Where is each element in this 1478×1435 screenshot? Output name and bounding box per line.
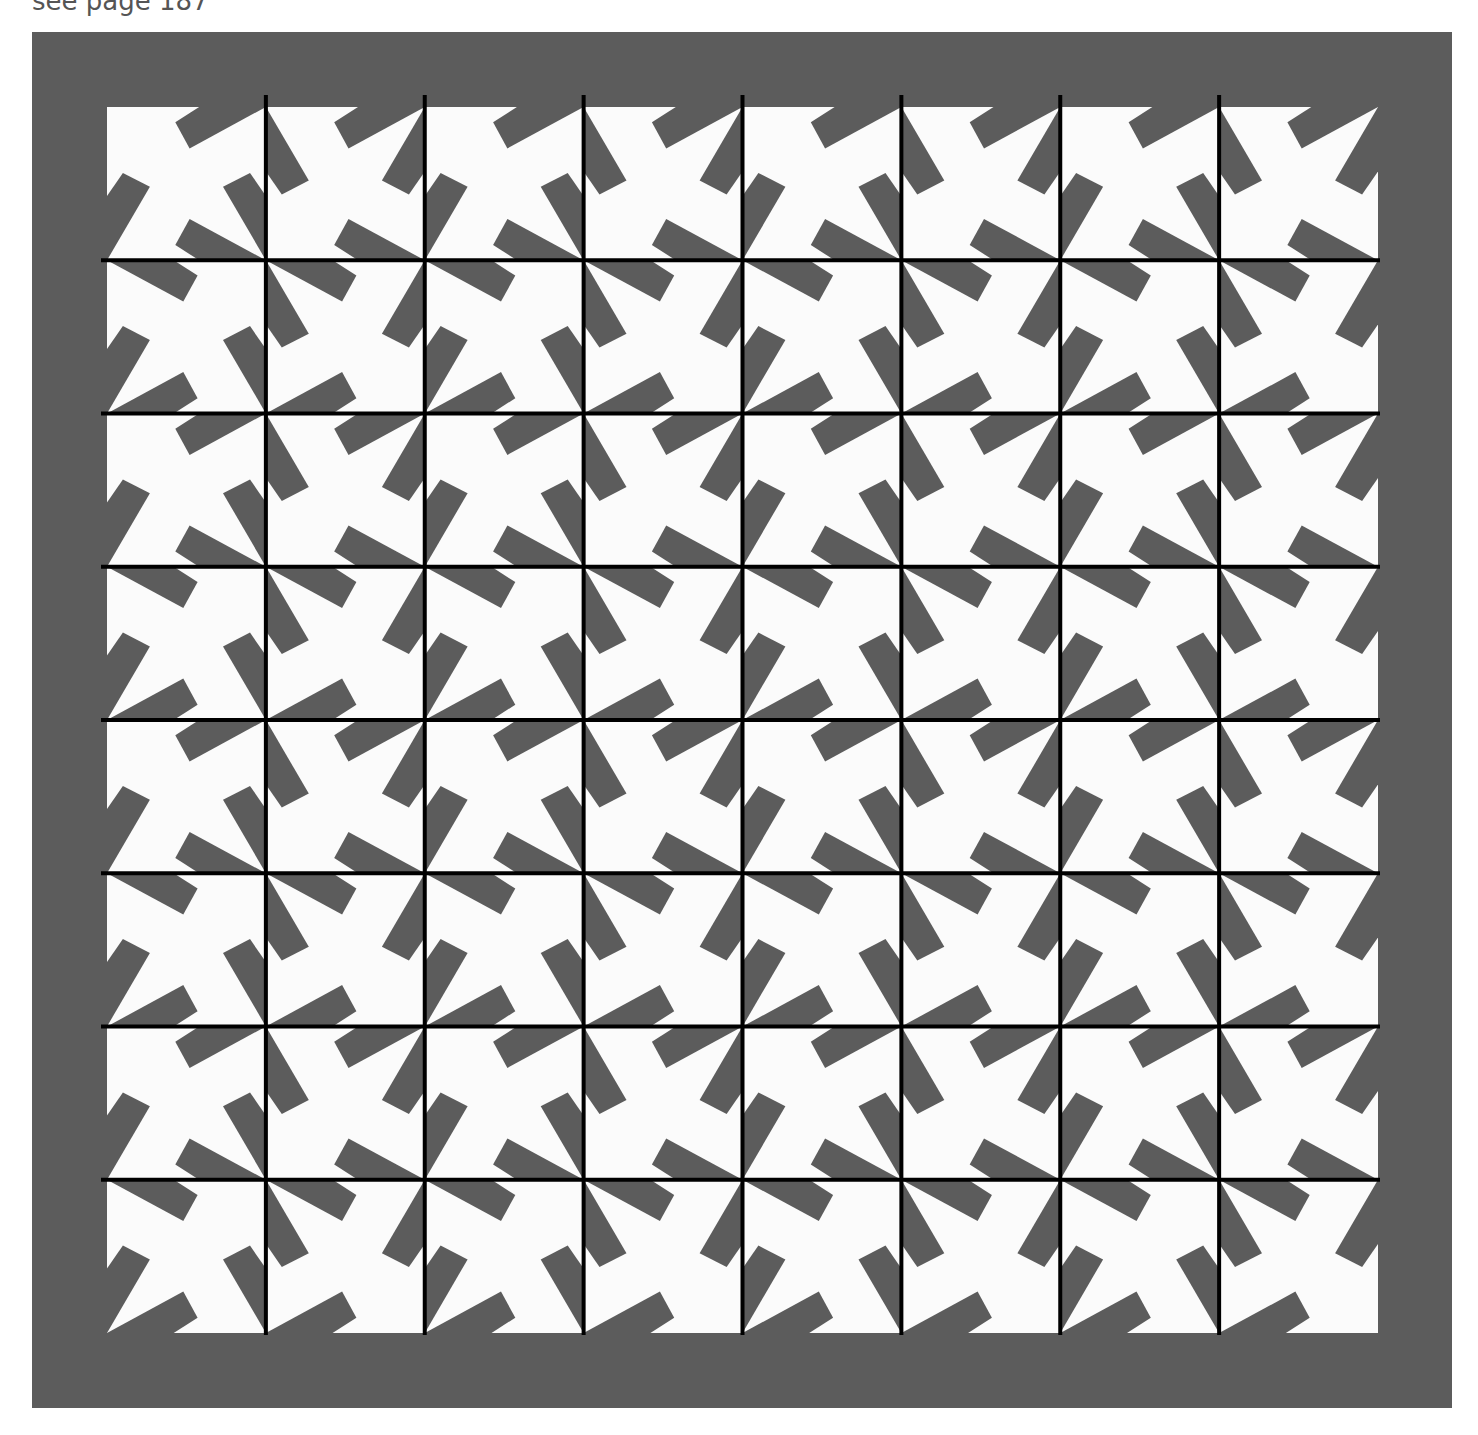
page-reference-caption: see page 187 (32, 0, 209, 16)
pinwheel-tiling-figure (32, 32, 1452, 1408)
tile-grid (32, 32, 1452, 1408)
